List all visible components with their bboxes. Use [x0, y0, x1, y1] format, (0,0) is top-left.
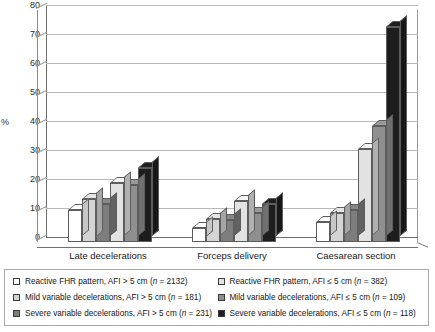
bar-side: [400, 16, 407, 236]
legend-item[interactable]: Severe variable decelerations, AFI > 5 c…: [13, 309, 218, 318]
legend-item-label: Mild variable decelerations, AFI > 5 cm …: [25, 293, 201, 302]
legend-item[interactable]: Severe variable decelerations, AFI ≤ 5 c…: [218, 309, 423, 318]
legend-swatch-icon: [218, 310, 225, 317]
bar-side: [96, 187, 103, 236]
gridline-60: [46, 63, 418, 64]
group-label-1: Late decelerations: [46, 250, 170, 261]
bar-face: [316, 222, 330, 242]
legend-column-right: Reactive FHR pattern, AFI ≤ 5 cm (n = 38…: [218, 274, 423, 321]
group-label-3: Caesarean section: [294, 250, 418, 261]
legend-item[interactable]: Mild variable decelerations, AFI ≤ 5 cm …: [218, 293, 423, 302]
legend-column-left: Reactive FHR pattern, AFI > 5 cm (n = 21…: [13, 274, 218, 321]
floor-right-edge: [417, 242, 428, 248]
bar: [316, 216, 330, 242]
legend-item-label: Severe variable decelerations, AFI ≤ 5 c…: [230, 309, 416, 318]
bar-side: [138, 174, 145, 236]
bar-face: [68, 210, 82, 242]
bar-side: [248, 190, 255, 236]
bar-side: [110, 192, 117, 236]
bar-side: [152, 156, 159, 236]
legend-swatch-icon: [218, 278, 225, 285]
legend-item[interactable]: Mild variable decelerations, AFI > 5 cm …: [13, 293, 218, 302]
bar-face: [192, 228, 206, 243]
chart-legend: Reactive FHR pattern, AFI > 5 cm (n = 21…: [4, 269, 429, 326]
y-axis-back-line: [37, 10, 38, 242]
bar-side: [344, 201, 351, 236]
gridline-50: [46, 92, 418, 93]
plot-area: [46, 5, 418, 237]
legend-item[interactable]: Reactive FHR pattern, AFI > 5 cm (n = 21…: [13, 277, 218, 286]
gridline-70: [46, 34, 418, 35]
gridline-80: [46, 5, 418, 6]
bar-side: [262, 201, 269, 236]
legend-item-label: Reactive FHR pattern, AFI > 5 cm (n = 21…: [25, 277, 187, 286]
legend-swatch-icon: [13, 310, 20, 317]
legend-item-label: Mild variable decelerations, AFI ≤ 5 cm …: [230, 293, 406, 302]
group-label-2: Forceps delivery: [170, 250, 294, 261]
bar: [192, 222, 206, 243]
legend-item-label: Reactive FHR pattern, AFI ≤ 5 cm (n = 38…: [230, 277, 388, 286]
legend-item[interactable]: Reactive FHR pattern, AFI ≤ 5 cm (n = 38…: [218, 277, 423, 286]
bar-side: [386, 114, 393, 236]
bar-side: [82, 198, 89, 236]
legend-swatch-icon: [13, 294, 20, 301]
legend-swatch-icon: [13, 278, 20, 285]
legend-item-label: Severe variable decelerations, AFI > 5 c…: [25, 309, 212, 318]
bar-side: [358, 198, 365, 236]
bar-side: [276, 192, 283, 236]
bar-chart: % 80706050403020100 Late decelerationsFo…: [0, 0, 435, 266]
gridline-40: [46, 121, 418, 122]
y-axis-title: %: [1, 117, 9, 127]
legend-swatch-icon: [218, 294, 225, 301]
bar-side: [372, 137, 379, 236]
bar: [68, 204, 82, 242]
bar-side: [124, 171, 131, 236]
x-axis-line: [37, 247, 418, 248]
